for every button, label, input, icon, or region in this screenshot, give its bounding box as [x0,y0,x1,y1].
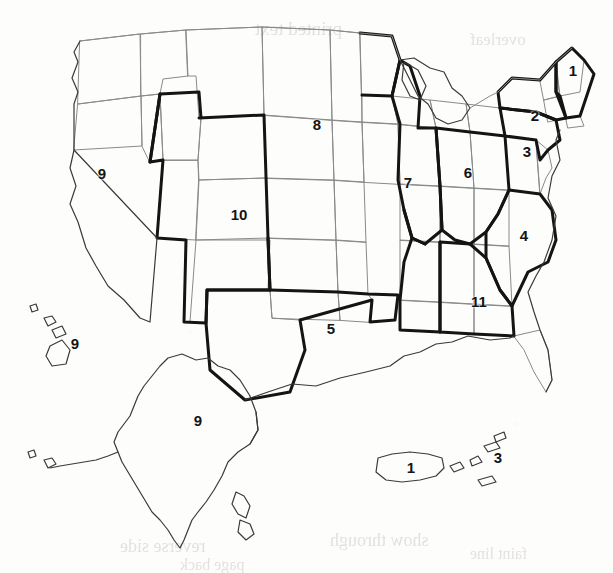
label-10-mountain: 10 [231,207,248,222]
label-9-alaska: 9 [194,413,202,428]
label-7-great-lakes-w: 7 [404,175,412,190]
label-4-southeast-atl: 4 [520,228,528,243]
label-8-upper-midwest: 8 [313,117,321,132]
label-2-new-york: 2 [531,108,539,123]
label-5-south-central: 5 [327,321,335,336]
label-3-virgin-islands: 3 [494,450,502,465]
label-6-great-lakes-e: 6 [464,165,472,180]
region-boundaries [150,33,594,400]
label-1-new-england: 1 [569,63,577,78]
label-9-hawaii: 9 [71,336,79,351]
label-11-deep-south: 11 [471,294,487,309]
us-regions-map-svg [0,0,613,573]
label-1-puerto-rico: 1 [407,460,415,475]
label-3-mid-atlantic: 3 [523,144,531,159]
map-page: printed textoverleafreverse sideshow thr… [0,0,613,573]
label-9-west-pacific: 9 [98,166,106,181]
